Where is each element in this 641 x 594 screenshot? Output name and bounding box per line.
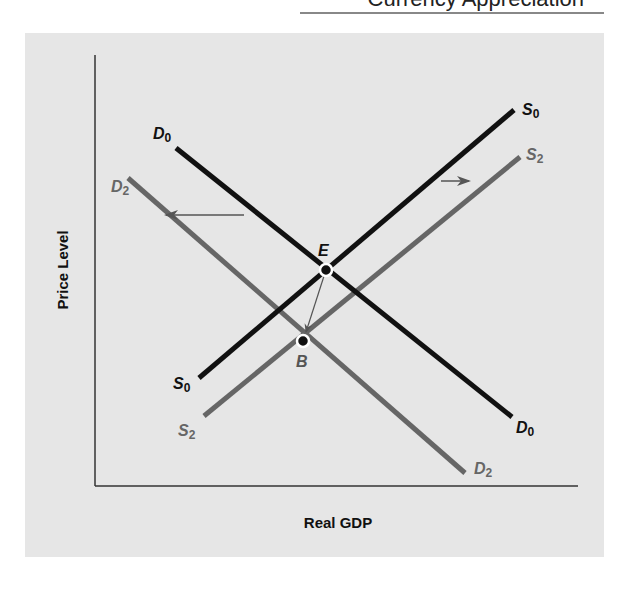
y-axis-label: Price Level	[54, 230, 71, 309]
label-s0-bottom: S0	[173, 375, 191, 395]
label-d2: D2	[111, 178, 130, 198]
label-d0: D0	[153, 125, 172, 145]
curve-s0	[199, 110, 514, 378]
label-s2-bottom: S2	[178, 422, 196, 442]
curve-d0	[176, 148, 512, 417]
point-b-marker	[297, 335, 309, 347]
point-e-marker	[320, 264, 332, 276]
x-axis-label: Real GDP	[304, 514, 372, 531]
ad-as-diagram: D0 D2 S0 S2 S0 S2 D0 D2 E B Real GDP Pri…	[0, 0, 641, 594]
label-point-e: E	[318, 242, 330, 259]
label-s0-top: S0	[522, 101, 540, 121]
label-point-b: B	[296, 353, 308, 370]
label-d0-bottom: D0	[516, 419, 535, 439]
label-s2-top: S2	[526, 146, 544, 166]
label-d2-bottom: D2	[474, 460, 493, 480]
